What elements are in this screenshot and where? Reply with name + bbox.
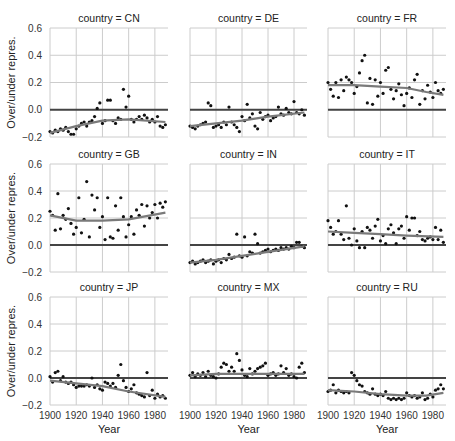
data-point: [138, 115, 141, 118]
data-point: [418, 230, 421, 233]
data-point: [437, 89, 440, 92]
data-point: [342, 238, 345, 241]
data-point: [153, 203, 156, 206]
facet-panel-jp: country = JP−0.20.00.20.40.6190019201940…: [22, 281, 168, 435]
data-point: [207, 101, 210, 104]
data-point: [145, 371, 148, 374]
data-point: [225, 123, 228, 126]
panel-title: country = MX: [217, 281, 279, 293]
trend-line: [50, 213, 165, 221]
data-point: [119, 363, 122, 366]
panel-title: country = GB: [78, 148, 140, 160]
data-point: [101, 389, 104, 392]
facet-panel-de: country = DE: [188, 12, 307, 137]
data-point: [332, 95, 335, 98]
data-point: [103, 238, 106, 241]
data-point: [235, 126, 238, 129]
data-point: [251, 112, 254, 115]
data-point: [405, 391, 408, 394]
data-point: [405, 215, 408, 218]
data-point: [143, 225, 146, 228]
data-point: [397, 82, 400, 85]
data-point: [371, 387, 374, 390]
data-point: [381, 92, 384, 95]
data-point: [431, 96, 434, 99]
data-point: [127, 95, 130, 98]
data-point: [72, 233, 75, 236]
data-point: [384, 390, 387, 393]
data-point: [413, 78, 416, 81]
data-point: [392, 97, 395, 100]
facet-panel-fr: country = FR: [326, 12, 446, 137]
x-tick-label: 1960: [118, 410, 141, 421]
x-tick-label: 1960: [257, 410, 280, 421]
y-tick-label: −0.2: [22, 132, 42, 143]
facet-panel-cn: country = CN−0.20.00.20.40.6: [22, 12, 168, 143]
data-point: [374, 225, 377, 228]
data-point: [220, 261, 223, 264]
data-point: [326, 81, 329, 84]
data-point: [402, 397, 405, 400]
data-point: [48, 375, 51, 378]
y-tick-label: 0.0: [28, 240, 42, 251]
data-point: [145, 204, 148, 207]
data-point: [397, 227, 400, 230]
data-point: [353, 374, 356, 377]
data-point: [360, 59, 363, 62]
data-point: [227, 253, 230, 256]
x-tick-label: 1960: [396, 410, 419, 421]
data-point: [340, 78, 343, 81]
data-point: [368, 77, 371, 80]
data-point: [227, 105, 230, 108]
data-point: [207, 370, 210, 373]
data-point: [358, 71, 361, 74]
data-point: [434, 226, 437, 229]
data-point: [243, 235, 246, 238]
data-point: [240, 368, 243, 371]
data-point: [298, 366, 301, 369]
data-point: [371, 103, 374, 106]
data-point: [164, 123, 167, 126]
data-point: [101, 215, 104, 218]
data-point: [109, 99, 112, 102]
data-point: [238, 359, 241, 362]
data-point: [342, 89, 345, 92]
x-tick-label: 1920: [205, 410, 228, 421]
x-tick-label: 1940: [91, 410, 114, 421]
data-point: [442, 241, 445, 244]
data-point: [122, 379, 125, 382]
data-point: [366, 101, 369, 104]
data-point: [384, 242, 387, 245]
data-point: [279, 364, 282, 367]
data-point: [111, 237, 114, 240]
x-tick-label: 1900: [39, 410, 62, 421]
data-point: [98, 226, 101, 229]
data-point: [285, 367, 288, 370]
data-point: [334, 391, 337, 394]
data-point: [96, 107, 99, 110]
x-tick-label: 1980: [144, 410, 167, 421]
data-point: [156, 115, 159, 118]
data-point: [264, 362, 267, 365]
data-point: [194, 127, 197, 130]
data-point: [423, 239, 426, 242]
data-point: [209, 104, 212, 107]
data-point: [442, 387, 445, 390]
facet-panel-it: country = IT: [326, 148, 446, 272]
data-point: [261, 364, 264, 367]
data-point: [145, 116, 148, 119]
data-point: [132, 120, 135, 123]
y-axis-label: Over/under repres.: [5, 305, 17, 397]
data-point: [246, 103, 249, 106]
data-point: [400, 93, 403, 96]
panel-title: country = RU: [356, 281, 418, 293]
data-point: [140, 203, 143, 206]
data-point: [437, 387, 440, 390]
data-point: [402, 104, 405, 107]
data-point: [416, 73, 419, 76]
data-point: [204, 120, 207, 123]
data-point: [253, 233, 256, 236]
data-point: [347, 78, 350, 81]
x-tick-label: 1940: [231, 410, 254, 421]
data-point: [423, 97, 426, 100]
